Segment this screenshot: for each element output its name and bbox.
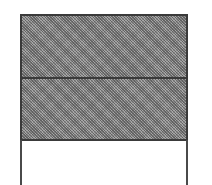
left-post [20, 140, 22, 185]
lower-panel [20, 77, 188, 141]
sign-diagram [0, 0, 212, 185]
upper-panel [20, 14, 188, 79]
right-post [186, 140, 188, 185]
